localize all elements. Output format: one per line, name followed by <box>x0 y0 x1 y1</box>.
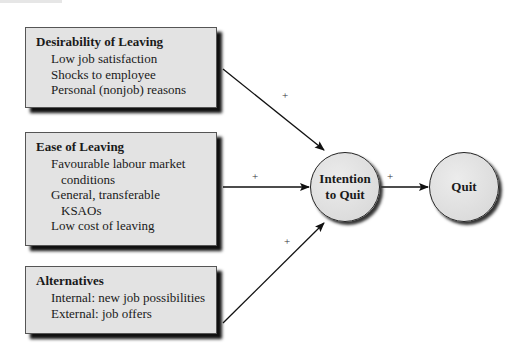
quit-node: Quit <box>429 152 499 222</box>
box-item: Shocks to employee <box>36 67 206 83</box>
plus-sign-alternatives: + <box>284 236 290 247</box>
box-item: Personal (nonjob) reasons <box>36 82 206 98</box>
box-item: External: job offers <box>36 306 206 322</box>
box-item-continuation: conditions <box>36 172 206 188</box>
desirability-of-leaving-box: Desirability of Leaving Low job satisfac… <box>25 27 217 108</box>
box-item: Internal: new job possibilities <box>36 290 206 306</box>
box-title: Ease of Leaving <box>36 139 206 155</box>
alternatives-box: Alternatives Internal: new job possibili… <box>25 266 217 334</box>
box-item-continuation: KSAOs <box>36 203 206 219</box>
edge-alternatives-to-intention <box>223 223 324 323</box>
plus-sign-ease: + <box>252 171 258 182</box>
box-item: Low job satisfaction <box>36 51 206 67</box>
box-item: General, transferable <box>36 187 206 203</box>
node-label-line2: to Quit <box>319 187 370 203</box>
intention-to-quit-node: Intention to Quit <box>310 152 380 222</box>
box-item: Favourable labour market <box>36 156 206 172</box>
node-label: Quit <box>451 179 476 195</box>
box-title: Desirability of Leaving <box>36 34 206 50</box>
plus-sign-intention-quit: + <box>387 171 393 182</box>
plus-sign-desirability: + <box>282 90 288 101</box>
box-item: Low cost of leaving <box>36 218 206 234</box>
edge-desirability-to-intention <box>223 69 324 150</box>
node-label-line1: Intention <box>319 171 370 187</box>
ease-of-leaving-box: Ease of Leaving Favourable labour market… <box>25 132 217 246</box>
box-title: Alternatives <box>36 273 206 289</box>
